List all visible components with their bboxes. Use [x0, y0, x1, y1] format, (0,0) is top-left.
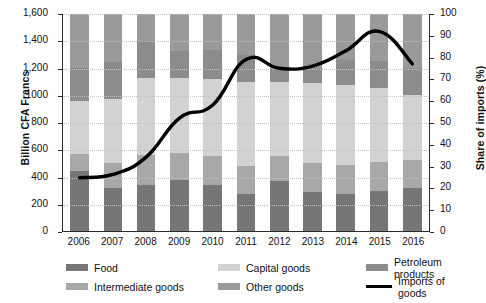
stacked-bar[interactable] [137, 14, 156, 231]
legend-color-swatch-icon [366, 264, 388, 271]
y-axis-left-tick-label: 0 [42, 225, 48, 236]
y-axis-right-tickmark [430, 210, 434, 211]
bar-segment [170, 78, 189, 153]
bar-segment [403, 188, 422, 231]
bar-segment [104, 99, 123, 163]
x-axis-tick-label: 2012 [263, 236, 296, 247]
y-axis-left-tick-label: 600 [31, 143, 48, 154]
legend-color-swatch-icon [66, 283, 88, 290]
bar-segment [70, 68, 89, 101]
bar-segment [303, 163, 322, 191]
stacked-bars-group [63, 14, 429, 231]
bar-segment [203, 156, 222, 184]
bar-segment [137, 14, 156, 41]
bar-segment [170, 153, 189, 180]
y-axis-right-tickmark [430, 145, 434, 146]
x-axis-tick-label: 2007 [95, 236, 128, 247]
legend-item[interactable]: Imports of goods [366, 275, 476, 299]
bar-slot [229, 14, 262, 231]
bar-segment [270, 14, 289, 68]
bar-segment [303, 14, 322, 68]
stacked-bar[interactable] [237, 14, 256, 231]
legend-label: Food [94, 262, 118, 274]
stacked-bar[interactable] [104, 14, 123, 231]
bar-segment [137, 155, 156, 185]
bar-slot [96, 14, 129, 231]
bar-segment [70, 154, 89, 171]
bar-segment [403, 160, 422, 187]
bar-segment [137, 185, 156, 231]
stacked-bar[interactable] [403, 14, 422, 231]
y-axis-left-tickmark [58, 232, 62, 233]
y-axis-right-tick-label: 70 [440, 72, 451, 83]
y-axis-right-tick-label: 40 [440, 138, 451, 149]
x-axis-tick-label: 2006 [62, 236, 95, 247]
y-axis-right-tick-label: 20 [440, 181, 451, 192]
legend-color-swatch-icon [66, 264, 88, 271]
bar-segment [203, 185, 222, 231]
y-axis-right-tick-label: 90 [440, 29, 451, 40]
bar-segment [303, 83, 322, 163]
bar-segment [203, 14, 222, 50]
bar-segment [370, 14, 389, 61]
legend-item[interactable]: Food [66, 262, 218, 274]
bar-slot [63, 14, 96, 231]
stacked-bar[interactable] [303, 14, 322, 231]
bar-segment [270, 82, 289, 156]
y-axis-left-tick-label: 1,400 [23, 34, 48, 45]
y-axis-right-tick-label: 10 [440, 203, 451, 214]
legend-item[interactable]: Capital goods [218, 262, 366, 274]
x-axis-tick-label: 2014 [330, 236, 363, 247]
stacked-bar[interactable] [270, 14, 289, 231]
y-axis-left-tick-label: 1,200 [23, 62, 48, 73]
legend-label: Capital goods [246, 262, 310, 274]
bar-segment [104, 14, 123, 61]
stacked-bar[interactable] [370, 14, 389, 231]
y-axis-left-tick-label: 800 [31, 116, 48, 127]
bar-segment [270, 68, 289, 82]
bar-segment [370, 61, 389, 88]
bar-slot [196, 14, 229, 231]
stacked-bar[interactable] [70, 14, 89, 231]
bar-segment [170, 14, 189, 51]
x-axis-tick-label: 2009 [162, 236, 195, 247]
y-axis-right-tickmark [430, 232, 434, 233]
chart-legend: FoodCapital goodsPetroleum productsInter… [66, 258, 466, 296]
bar-slot [163, 14, 196, 231]
y-axis-right-tickmark [430, 36, 434, 37]
bar-segment [237, 14, 256, 55]
y-axis-right-tickmark [430, 58, 434, 59]
bar-segment [336, 60, 355, 85]
y-axis-left-tick-label: 1,600 [23, 7, 48, 18]
bar-segment [370, 88, 389, 162]
y-axis-right-tickmark [430, 188, 434, 189]
y-axis-right-tickmark [430, 79, 434, 80]
legend-item[interactable]: Other goods [218, 281, 366, 293]
stacked-bar[interactable] [203, 14, 222, 231]
y-axis-right-tick-label: 30 [440, 160, 451, 171]
x-axis-tick-label: 2010 [196, 236, 229, 247]
x-axis-tick-label: 2016 [397, 236, 430, 247]
bar-segment [270, 181, 289, 231]
bar-segment [303, 192, 322, 231]
legend-line-swatch-icon [366, 285, 392, 289]
stacked-bar[interactable] [170, 14, 189, 231]
bar-segment [203, 50, 222, 79]
bar-segment [203, 79, 222, 156]
x-axis-tick-label: 2008 [129, 236, 162, 247]
bar-segment [170, 51, 189, 78]
y-axis-right-tickmark [430, 167, 434, 168]
legend-label: Intermediate goods [94, 281, 184, 293]
x-axis-tick-label: 2015 [363, 236, 396, 247]
bar-segment [370, 162, 389, 191]
legend-item[interactable]: Intermediate goods [66, 281, 218, 293]
bar-segment [336, 85, 355, 165]
y-axis-right-tickmark [430, 14, 434, 15]
bar-segment [170, 180, 189, 231]
legend-color-swatch-icon [218, 264, 240, 271]
y-axis-right-tick-label: 50 [440, 116, 451, 127]
y-axis-right-tick-label: 100 [440, 7, 457, 18]
stacked-bar[interactable] [336, 14, 355, 231]
bar-segment [336, 165, 355, 194]
